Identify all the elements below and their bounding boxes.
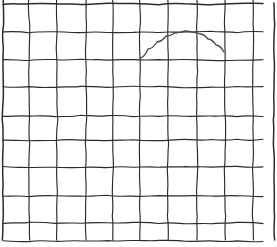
grid-figure xyxy=(0,0,277,247)
figure-canvas xyxy=(0,0,277,247)
figure-background xyxy=(0,0,277,247)
gridline-vertical-5 xyxy=(112,0,113,240)
